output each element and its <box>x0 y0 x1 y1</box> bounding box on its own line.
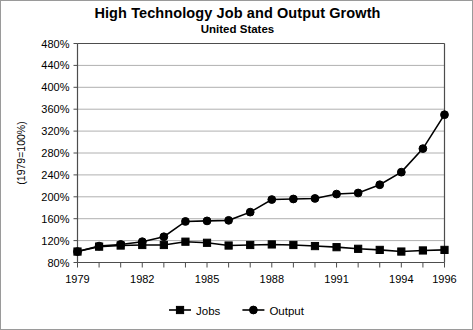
data-point-jobs <box>160 241 167 248</box>
data-point-output <box>95 242 103 250</box>
x-axis-tick-label: 1996 <box>432 273 456 285</box>
data-point-output <box>225 216 233 224</box>
data-point-output <box>246 208 254 216</box>
x-axis-ticks-group <box>78 263 445 268</box>
data-point-output <box>203 217 211 225</box>
data-point-output <box>333 190 341 198</box>
data-point-output <box>376 181 384 189</box>
series-group <box>74 111 449 256</box>
y-axis-tick-label: 400% <box>41 81 69 93</box>
y-axis-tick-label: 80% <box>47 257 69 269</box>
x-axis-tick-label: 1988 <box>260 273 284 285</box>
data-point-output <box>441 111 449 119</box>
chart-container: High Technology Job and Output Growth Un… <box>0 0 473 330</box>
y-axis-tick-labels-group: 480%440%400%360%320%280%240%200%160%120%… <box>41 38 69 269</box>
data-point-jobs <box>376 246 383 253</box>
data-point-jobs <box>268 241 275 248</box>
y-axis-title-group: (1979=100%) <box>15 121 27 184</box>
data-point-jobs <box>182 238 189 245</box>
data-point-output <box>397 168 405 176</box>
data-point-output <box>117 241 125 249</box>
x-axis-tick-labels-group: 1979198219851988199119941996 <box>65 273 456 285</box>
legend-marker-output <box>250 306 258 314</box>
data-point-jobs <box>247 241 254 248</box>
legend-label-jobs: Jobs <box>196 305 221 317</box>
y-axis-tick-label: 200% <box>41 191 69 203</box>
data-point-output <box>138 238 146 246</box>
gridlines-group <box>78 44 445 241</box>
data-point-jobs <box>419 247 426 254</box>
legend-group: JobsOutput <box>169 305 305 317</box>
data-point-output <box>160 233 168 241</box>
data-point-jobs <box>355 245 362 252</box>
y-axis-tick-label: 240% <box>41 169 69 181</box>
data-point-jobs <box>333 244 340 251</box>
x-axis-tick-label: 1979 <box>65 273 89 285</box>
y-axis-title: (1979=100%) <box>15 121 27 184</box>
y-axis-tick-label: 280% <box>41 147 69 159</box>
data-point-jobs <box>398 248 405 255</box>
data-point-output <box>311 195 319 203</box>
series-line-output <box>78 115 445 252</box>
data-point-jobs <box>311 242 318 249</box>
data-point-output <box>74 248 82 256</box>
x-axis-tick-label: 1985 <box>195 273 219 285</box>
data-point-jobs <box>290 241 297 248</box>
data-point-output <box>182 218 190 226</box>
y-axis-tick-label: 320% <box>41 125 69 137</box>
data-point-jobs <box>441 246 448 253</box>
y-axis-tick-label: 440% <box>41 59 69 71</box>
data-point-jobs <box>225 242 232 249</box>
x-axis-tick-label: 1994 <box>389 273 413 285</box>
y-axis-tick-label: 480% <box>41 38 69 50</box>
x-axis-tick-label: 1991 <box>324 273 348 285</box>
legend-marker-jobs <box>176 306 183 313</box>
y-axis-tick-label: 160% <box>41 213 69 225</box>
data-point-output <box>289 195 297 203</box>
data-point-jobs <box>203 239 210 246</box>
chart-plot-area: 480%440%400%360%320%280%240%200%160%120%… <box>1 1 473 330</box>
data-point-output <box>354 189 362 197</box>
y-axis-tick-label: 360% <box>41 103 69 115</box>
y-axis-tick-label: 120% <box>41 235 69 247</box>
data-point-output <box>419 145 427 153</box>
data-point-output <box>268 196 276 204</box>
x-axis-tick-label: 1982 <box>130 273 154 285</box>
legend-label-output: Output <box>269 305 304 317</box>
